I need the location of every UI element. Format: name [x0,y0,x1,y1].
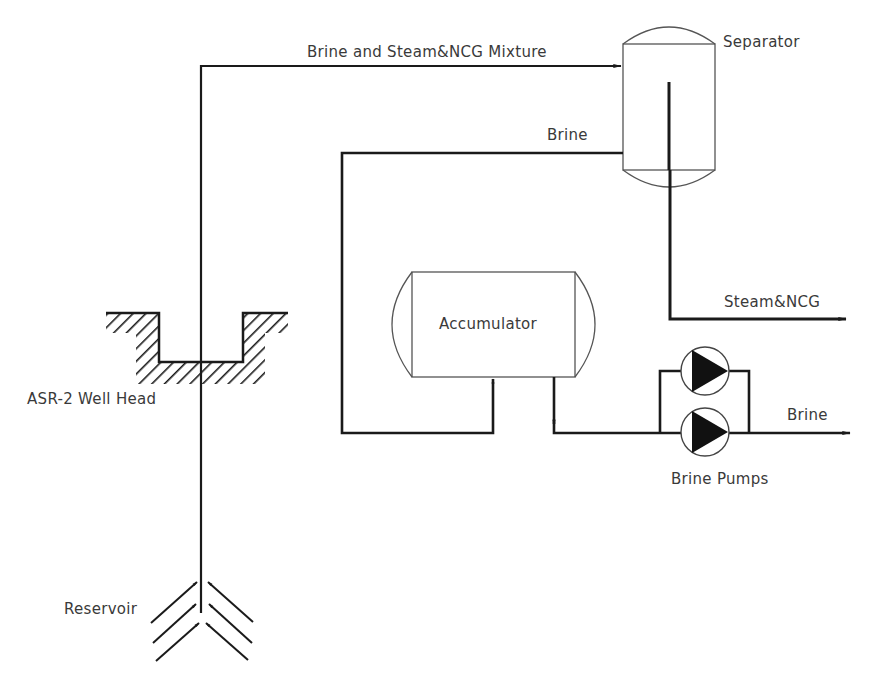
brine-pump-2 [681,408,729,456]
separator-label: Separator [723,33,800,51]
well-head-ground [106,313,288,384]
mixture-line-label: Brine and Steam&NCG Mixture [307,43,547,61]
accumulator-outlet-pipe [554,377,681,433]
steam-outlet-label: Steam&NCG [724,293,820,311]
brine-return-label: Brine [547,126,588,144]
brine-outlet-label: Brine [787,406,828,424]
reservoir-label: Reservoir [64,600,137,618]
separator-vessel [623,27,715,187]
well-head-label: ASR-2 Well Head [27,390,156,408]
brine-pump-1 [681,347,729,395]
brine-pumps-label: Brine Pumps [671,470,769,488]
accumulator-label: Accumulator [439,315,537,333]
process-diagram [0,0,876,697]
